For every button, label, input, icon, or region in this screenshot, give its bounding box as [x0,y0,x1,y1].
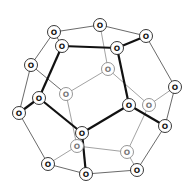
graph-node: O [131,164,144,177]
node-label: O [143,32,149,41]
node-label: O [28,61,34,70]
back-nodes-layer: OOOOO [60,63,156,159]
node-label: O [51,28,57,37]
node-label: O [83,170,89,179]
graph-node: O [121,146,134,159]
node-label: O [63,90,69,99]
graph-node: O [33,92,46,105]
edge-2-7 [146,36,175,87]
graph-node: O [159,120,172,133]
node-label: O [59,42,65,51]
edge-16-11 [127,105,149,152]
edge-9-14 [39,98,82,133]
graph-node: O [102,63,115,76]
edge-3-9 [39,46,62,98]
graph-node: O [42,158,55,171]
edge-0-2 [100,25,146,36]
graph-node: O [80,168,93,181]
node-label: O [45,160,51,169]
graph-node: O [143,99,156,112]
graph-node: O [123,99,136,112]
graph-node: O [56,40,69,53]
graph-node: O [94,19,107,32]
graph-node: O [169,81,182,94]
node-label: O [79,129,85,138]
dodecahedron-graph: OOOOO OOOOOOOOOOOOOOO [0,0,190,193]
edge-19-18 [86,170,137,174]
graph-node: O [25,59,38,72]
graph-node: O [140,30,153,43]
node-label: O [36,94,42,103]
node-label: O [105,65,111,74]
edge-6-8 [66,69,108,94]
edge-13-18 [137,126,165,170]
node-label: O [162,122,168,131]
node-label: O [134,166,140,175]
node-label: O [114,44,120,53]
graph-node: O [76,127,89,140]
node-label: O [74,142,80,151]
graph-node: O [13,107,26,120]
graph-node: O [111,42,124,55]
graph-node: O [48,26,61,39]
node-label: O [16,109,22,118]
node-label: O [97,21,103,30]
node-label: O [146,101,152,110]
edge-0-1 [54,25,100,32]
edge-3-4 [62,46,117,48]
graph-node: O [71,140,84,153]
edge-10-14 [82,105,129,133]
edge-12-17 [19,113,48,164]
node-label: O [126,101,132,110]
node-label: O [124,148,130,157]
node-label: O [172,83,178,92]
graph-node: O [60,88,73,101]
front-nodes-layer: OOOOOOOOOOOOOOO [13,19,182,181]
edge-4-10 [117,48,129,105]
